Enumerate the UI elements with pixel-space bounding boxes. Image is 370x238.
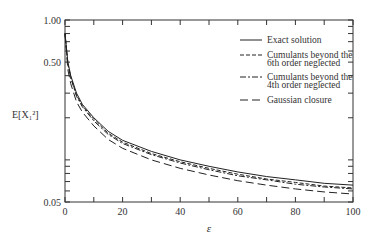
x-tick-label: 0: [63, 206, 68, 217]
plot-frame: [65, 20, 353, 202]
x-tick-label: 100: [346, 206, 361, 217]
line-chart: 0204060801000.050.501.00εE[X₁²]Exact sol…: [0, 0, 370, 238]
y-tick-label: 1.00: [44, 15, 62, 26]
y-tick-label: 0.05: [44, 197, 62, 208]
chart: 0204060801000.050.501.00εE[X₁²]Exact sol…: [0, 0, 370, 238]
y-tick-label: 0.50: [44, 57, 62, 68]
x-tick-label: 40: [175, 206, 185, 217]
legend-entry: Exact solution: [267, 35, 322, 45]
legend-entry: Gaussian closure: [267, 95, 332, 105]
x-tick-label: 60: [233, 206, 243, 217]
legend-entry: 4th order neglected: [267, 80, 341, 90]
x-axis-label: ε: [207, 222, 212, 234]
x-tick-label: 20: [118, 206, 128, 217]
y-axis-label: E[X₁²]: [12, 109, 38, 120]
x-tick-label: 80: [290, 206, 300, 217]
legend-entry: 6th order neglected: [267, 58, 341, 68]
